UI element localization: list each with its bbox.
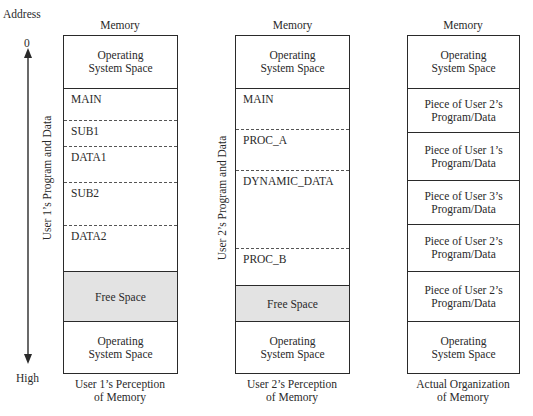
program-segment-data2: DATA2 xyxy=(64,225,177,271)
column-3-memory-box: OperatingSystem Space Piece of User 2’sP… xyxy=(407,35,520,374)
program-segment-sub1: SUB1 xyxy=(64,120,177,146)
column-2-caption: User 2’s Perceptionof Memory xyxy=(225,378,359,404)
program-segment-main: MAIN xyxy=(64,88,177,120)
column-1-caption: User 1’s Perceptionof Memory xyxy=(53,378,187,404)
program-segment-main: MAIN xyxy=(236,88,349,129)
column-1-header: Memory xyxy=(63,19,177,32)
program-segment-proc-a: PROC_A xyxy=(236,129,349,170)
memory-piece-label: Piece of User 3’sProgram/Data xyxy=(408,190,519,216)
memory-piece-segment: Piece of User 1’sProgram/Data xyxy=(408,132,519,180)
os-space-segment: OperatingSystem Space xyxy=(236,36,349,88)
memory-piece-label: Piece of User 2’sProgram/Data xyxy=(408,98,519,124)
column-3-caption: Actual Organizationof Memory xyxy=(396,378,530,404)
os-space-label: OperatingSystem Space xyxy=(408,49,519,75)
free-space-label: Free Space xyxy=(236,297,349,310)
memory-piece-segment: Piece of User 2’sProgram/Data xyxy=(408,224,519,271)
os-space-segment: OperatingSystem Space xyxy=(408,321,519,373)
os-space-label: OperatingSystem Space xyxy=(408,335,519,361)
program-segment-proc-b: PROC_B xyxy=(236,248,349,285)
memory-piece-label: Piece of User 1’sProgram/Data xyxy=(408,144,519,170)
os-space-label: OperatingSystem Space xyxy=(236,49,349,75)
memory-piece-segment: Piece of User 2’sProgram/Data xyxy=(408,271,519,321)
memory-piece-segment: Piece of User 3’sProgram/Data xyxy=(408,180,519,224)
column-3-header: Memory xyxy=(407,19,519,32)
os-space-label: OperatingSystem Space xyxy=(236,335,349,361)
column-1-side-label: User 1’s Program and Data xyxy=(41,116,53,241)
program-segment-data1: DATA1 xyxy=(64,146,177,182)
column-2-header: Memory xyxy=(235,19,350,32)
os-space-label: OperatingSystem Space xyxy=(64,49,177,75)
program-segment-sub2: SUB2 xyxy=(64,182,177,225)
free-space-label: Free Space xyxy=(64,290,177,303)
program-segment-dynamic-data: DYNAMIC_DATA xyxy=(236,170,349,248)
memory-piece-label: Piece of User 2’sProgram/Data xyxy=(408,284,519,310)
os-space-label: OperatingSystem Space xyxy=(64,335,177,361)
os-space-segment: OperatingSystem Space xyxy=(408,36,519,88)
column-1-memory-box: OperatingSystem Space MAIN SUB1 DATA1 SU… xyxy=(63,35,178,374)
memory-piece-segment: Piece of User 2’sProgram/Data xyxy=(408,88,519,132)
memory-piece-label: Piece of User 2’sProgram/Data xyxy=(408,235,519,261)
address-axis-bottom-label: High xyxy=(16,372,39,385)
os-space-segment: OperatingSystem Space xyxy=(236,321,349,373)
address-axis-title: Address xyxy=(3,8,41,21)
free-space-segment: Free Space xyxy=(236,285,349,321)
os-space-segment: OperatingSystem Space xyxy=(64,36,177,88)
free-space-segment: Free Space xyxy=(64,271,177,321)
column-2-memory-box: OperatingSystem Space MAIN PROC_A DYNAMI… xyxy=(235,35,350,374)
column-2-side-label: User 2’s Program and Data xyxy=(216,136,228,261)
address-axis-arrow-icon xyxy=(20,48,36,364)
os-space-segment: OperatingSystem Space xyxy=(64,321,177,373)
